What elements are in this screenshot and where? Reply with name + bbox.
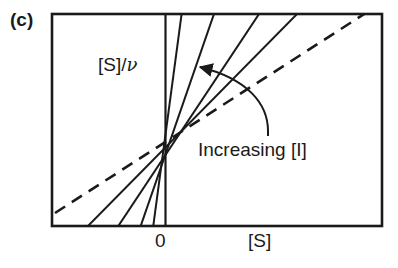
x-axis-label: [S] — [248, 231, 271, 250]
hanes-woolf-plot — [0, 0, 398, 268]
figure-panel-c: (c) [S]/ν 0 [S] Increasing [I] — [0, 0, 398, 268]
y-axis-label-nu-symbol: ν — [127, 54, 138, 75]
panel-label: (c) — [10, 10, 33, 29]
y-axis-label: [S]/ν — [98, 55, 137, 74]
x-axis-origin-label: 0 — [155, 231, 166, 250]
y-axis-label-main: [S]/ — [98, 54, 127, 75]
increasing-inhibitor-label: Increasing [I] — [198, 140, 307, 159]
plot-frame — [52, 14, 382, 226]
